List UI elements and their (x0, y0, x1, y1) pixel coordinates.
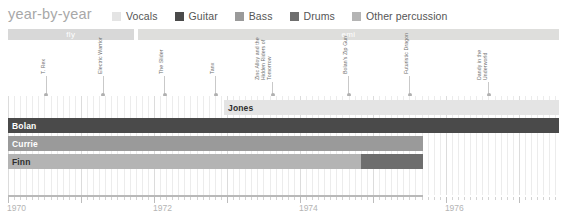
axis-tick-minor (221, 197, 222, 200)
axis-tick-minor (288, 197, 289, 200)
album-annotations: T. RexElectric WarriorThe SliderTanxZinc… (0, 44, 567, 96)
axis-tick-minor (470, 197, 471, 200)
axis-tick-minor (464, 197, 465, 200)
axis-tick-minor (57, 197, 58, 200)
member-label: Finn (12, 157, 31, 167)
legend-swatch-icon (175, 12, 184, 21)
axis-tick-minor (306, 197, 307, 200)
axis-tick-minor (209, 197, 210, 200)
axis-tick-major (81, 197, 82, 203)
member-label: Jones (228, 103, 253, 113)
album-annotation[interactable]: Bolan's Zip Gun (348, 44, 349, 96)
axis-tick-minor (385, 197, 386, 200)
axis-tick-label: 1970 (7, 203, 26, 213)
axis-tick-minor (203, 197, 204, 200)
axis-tick-minor (190, 197, 191, 200)
axis-tick-major (227, 197, 228, 203)
axis-tick-minor (525, 197, 526, 200)
legend-item-bass[interactable]: Bass (235, 10, 273, 22)
axis-tick-minor (330, 197, 331, 200)
axis-tick-minor (130, 197, 131, 200)
label-band-text: emi (138, 29, 559, 40)
member-label: Bolan (12, 121, 36, 131)
axis-tick-minor (294, 197, 295, 200)
axis-tick-minor (403, 197, 404, 200)
chart-header: year-by-year VocalsGuitarBassDrumsOther … (0, 0, 567, 28)
axis-tick-label: 1976 (445, 203, 464, 213)
axis-tick-minor (160, 197, 161, 200)
label-band-text: fly (8, 29, 134, 40)
chart-root: year-by-year VocalsGuitarBassDrumsOther … (0, 0, 567, 217)
axis-tick-minor (507, 197, 508, 200)
legend-item-other-percussion[interactable]: Other percussion (352, 10, 448, 22)
axis-tick-minor (215, 197, 216, 200)
axis-tick-minor (440, 197, 441, 200)
axis-tick-minor (482, 197, 483, 200)
album-annotation[interactable]: Tanx (215, 44, 216, 96)
label-band-emi: emi (138, 29, 559, 40)
legend-swatch-icon (112, 12, 121, 21)
axis-tick-minor (276, 197, 277, 200)
axis-tick-minor (75, 197, 76, 200)
axis-tick-minor (342, 197, 343, 200)
annotation-label: Tanx (209, 63, 215, 76)
axis-tick-major (519, 197, 520, 203)
page-title: year-by-year (8, 6, 92, 22)
plot-area: JonesBolanCurrieLegendLuttonFinn (0, 96, 567, 195)
x-axis: 1970197219741976 (0, 195, 567, 217)
axis-tick-minor (44, 197, 45, 200)
axis-tick-minor (476, 197, 477, 200)
legend-item-vocals[interactable]: Vocals (112, 10, 158, 22)
member-rows: JonesBolanCurrieLegendLuttonFinn (0, 96, 567, 195)
legend-item-guitar[interactable]: Guitar (175, 10, 218, 22)
axis-tick-minor (391, 197, 392, 200)
legend-item-label: Other percussion (366, 10, 448, 22)
axis-tick-minor (51, 197, 52, 200)
table-row[interactable]: Jones (224, 100, 559, 115)
axis-tick-minor (495, 197, 496, 200)
album-annotation[interactable]: Futuristic Dragon (409, 44, 410, 96)
axis-tick-minor (422, 197, 423, 200)
axis-tick-minor (178, 197, 179, 200)
axis-tick-minor (142, 197, 143, 200)
axis-tick-minor (428, 197, 429, 200)
axis-tick-minor (26, 197, 27, 200)
axis-tick-major (373, 197, 374, 203)
table-row[interactable]: Bolan (8, 118, 559, 133)
album-annotation[interactable]: Zinc Alloy and the Hidden Riders of Tomo… (272, 44, 273, 96)
table-row[interactable]: Currie (8, 136, 423, 151)
axis-tick-minor (355, 197, 356, 200)
axis-tick-minor (20, 197, 21, 200)
axis-tick-minor (513, 197, 514, 200)
axis-tick-minor (488, 197, 489, 200)
table-row[interactable]: Finn (8, 154, 361, 169)
member-label: Currie (12, 139, 38, 149)
axis-tick-minor (349, 197, 350, 200)
axis-tick-minor (379, 197, 380, 200)
axis-tick-minor (263, 197, 264, 200)
annotation-label: Bolan's Zip Gun (342, 36, 348, 76)
legend-item-label: Bass (249, 10, 273, 22)
axis-tick-minor (233, 197, 234, 200)
annotation-label: Futuristic Dragon (403, 33, 409, 76)
legend-item-label: Vocals (126, 10, 158, 22)
album-annotation[interactable]: Electric Warrior (103, 44, 104, 96)
annotation-label: Electric Warrior (97, 37, 103, 76)
axis-tick-minor (63, 197, 64, 200)
axis-tick-minor (136, 197, 137, 200)
legend-item-label: Guitar (189, 10, 218, 22)
legend-item-drums[interactable]: Drums (290, 10, 335, 22)
album-annotation[interactable]: The Slider (164, 44, 165, 96)
album-annotation[interactable]: T. Rex (46, 44, 47, 96)
axis-tick-minor (166, 197, 167, 200)
axis-tick-minor (415, 197, 416, 200)
axis-tick-minor (397, 197, 398, 200)
album-annotation[interactable]: Dandy in the Underworld (488, 44, 489, 96)
axis-tick-minor (458, 197, 459, 200)
axis-tick-minor (93, 197, 94, 200)
axis-tick-label: 1972 (153, 203, 172, 213)
chart-legend: VocalsGuitarBassDrumsOther percussion (112, 8, 464, 24)
axis-tick-minor (172, 197, 173, 200)
axis-tick-minor (14, 197, 15, 200)
axis-tick-minor (184, 197, 185, 200)
